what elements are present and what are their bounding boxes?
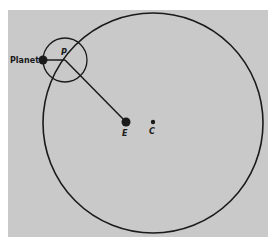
p-label: P — [61, 48, 67, 57]
center-label: C — [149, 127, 155, 136]
planet-label: Planet — [10, 56, 39, 65]
earth-label: E — [122, 129, 128, 138]
planet-dot — [39, 56, 48, 65]
earth-to-p-line — [65, 60, 126, 122]
epicycle-diagram: Planet P E C — [0, 0, 279, 245]
earth-dot — [122, 118, 131, 127]
center-dot — [151, 120, 155, 124]
